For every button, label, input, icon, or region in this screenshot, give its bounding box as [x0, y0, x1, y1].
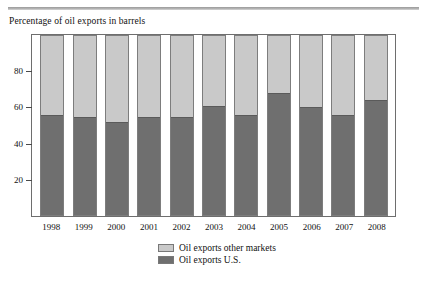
bar-segment-us: [74, 117, 96, 215]
bar-segment-us: [106, 122, 128, 215]
top-rule-divider: [8, 7, 419, 10]
bar-slot: [68, 35, 100, 216]
bar-segment-other-markets: [41, 36, 63, 115]
legend-swatch-icon: [158, 244, 174, 252]
bar-slot: [295, 35, 327, 216]
y-axis-tick: [26, 144, 32, 145]
bar-slot: [36, 35, 68, 216]
bar-segment-other-markets: [171, 36, 193, 117]
x-axis-tick-label: 2000: [100, 219, 133, 235]
bar-slot: [165, 35, 197, 216]
x-axis-labels: 1998199920002001200220032004200520062007…: [31, 219, 396, 235]
x-axis-tick-label: 2004: [230, 219, 263, 235]
bar-segment-other-markets: [235, 36, 257, 115]
bar-segment-other-markets: [300, 36, 322, 107]
bar-segment-us: [365, 100, 387, 215]
bar-segment-us: [332, 115, 354, 215]
bar-segment-us: [300, 107, 322, 215]
bar-group: [32, 35, 395, 216]
bar-segment-us: [268, 93, 290, 215]
stacked-bar[interactable]: [202, 35, 226, 216]
bar-slot: [360, 35, 392, 216]
bar-slot: [327, 35, 359, 216]
y-axis-tick: [26, 71, 32, 72]
plot-area: 20406080: [31, 34, 396, 217]
stacked-bar[interactable]: [364, 35, 388, 216]
bar-segment-us: [138, 117, 160, 215]
bar-segment-us: [171, 117, 193, 215]
x-axis-tick-label: 2005: [263, 219, 296, 235]
bar-slot: [198, 35, 230, 216]
bar-segment-other-markets: [332, 36, 354, 115]
bar-segment-us: [41, 115, 63, 215]
bar-segment-other-markets: [138, 36, 160, 117]
y-axis-tick: [26, 107, 32, 108]
bar-segment-other-markets: [365, 36, 387, 100]
bar-segment-other-markets: [203, 36, 225, 106]
legend-swatch-icon: [158, 256, 174, 264]
x-axis-tick-label: 2006: [295, 219, 328, 235]
legend-label: Oil exports other markets: [179, 243, 276, 253]
x-axis-tick-label: 2003: [198, 219, 231, 235]
legend-label: Oil exports U.S.: [179, 255, 241, 265]
x-axis-tick-label: 2008: [360, 219, 393, 235]
chart-legend: Oil exports other marketsOil exports U.S…: [158, 243, 276, 265]
stacked-bar[interactable]: [137, 35, 161, 216]
stacked-bar[interactable]: [170, 35, 194, 216]
legend-item[interactable]: Oil exports other markets: [158, 243, 276, 253]
stacked-bar[interactable]: [234, 35, 258, 216]
y-axis-tick-label: 40: [1, 139, 23, 149]
x-axis-tick-label: 2007: [328, 219, 361, 235]
bar-segment-other-markets: [106, 36, 128, 122]
x-axis-tick-label: 2001: [133, 219, 166, 235]
chart-page: Percentage of oil exports in barrels 204…: [0, 0, 427, 282]
bar-slot: [230, 35, 262, 216]
bar-segment-other-markets: [268, 36, 290, 93]
y-axis-tick-label: 80: [1, 66, 23, 76]
bar-slot: [133, 35, 165, 216]
plot-inner: [32, 35, 395, 216]
chart-caption: Percentage of oil exports in barrels: [9, 16, 145, 26]
bar-slot: [263, 35, 295, 216]
stacked-bar[interactable]: [267, 35, 291, 216]
stacked-bar[interactable]: [40, 35, 64, 216]
bar-segment-us: [235, 115, 257, 215]
y-axis-tick: [26, 180, 32, 181]
stacked-bar[interactable]: [73, 35, 97, 216]
x-axis-tick-label: 1998: [35, 219, 68, 235]
y-axis-tick-label: 60: [1, 102, 23, 112]
bar-slot: [101, 35, 133, 216]
stacked-bar[interactable]: [331, 35, 355, 216]
x-axis-tick-label: 2002: [165, 219, 198, 235]
stacked-bar[interactable]: [105, 35, 129, 216]
bar-segment-other-markets: [74, 36, 96, 117]
bar-segment-us: [203, 106, 225, 215]
y-axis-tick-label: 20: [1, 175, 23, 185]
x-axis-tick-label: 1999: [68, 219, 101, 235]
legend-item[interactable]: Oil exports U.S.: [158, 255, 276, 265]
stacked-bar[interactable]: [299, 35, 323, 216]
